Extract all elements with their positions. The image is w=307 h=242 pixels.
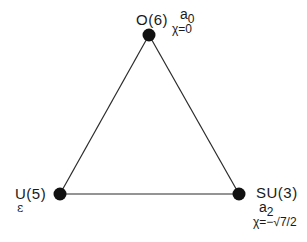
node-su3 [233,188,246,201]
o6-name-label: O(6) [136,12,168,27]
su3-chi-prefix: χ= [253,215,266,229]
su3-symmetry-label: a2 [259,200,273,214]
o6-symmetry-label: a0 [180,7,194,21]
node-u5 [54,188,67,201]
u5-symmetry-label: ε [17,202,23,214]
su3-name-label: SU(3) [256,185,298,200]
su3-chi-value: −√7/2 [266,215,296,229]
o6-chi-label: χ=0 [172,23,192,35]
node-o6 [143,29,156,42]
edge-o6-su3 [149,35,239,194]
su3-chi-label: χ=−√7/2 [253,216,297,228]
edge-o6-u5 [60,35,149,194]
u5-name-label: U(5) [15,186,46,201]
o6-symmetry-letter: a [180,6,188,22]
su3-symmetry-letter: a [259,199,267,215]
